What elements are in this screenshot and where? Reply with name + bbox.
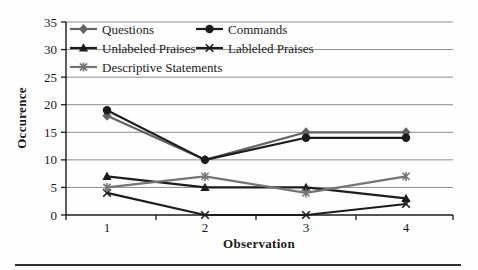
legend-label: Descriptive Statements: [102, 60, 222, 75]
diamond-marker-icon: [79, 24, 88, 34]
circle-marker-icon: [302, 134, 310, 142]
y-tick-label: 20: [44, 97, 57, 112]
line-chart-figure: 051015202530351234QuestionsCommandsUnlab…: [0, 0, 478, 270]
series-line-descriptive-statements: [107, 176, 406, 193]
y-tick-label: 25: [44, 70, 57, 85]
y-tick-label: 35: [44, 15, 57, 30]
x-tick-label: 3: [303, 220, 310, 235]
chart-canvas: 051015202530351234QuestionsCommandsUnlab…: [0, 0, 478, 256]
figure-bottom-rule: [15, 264, 461, 266]
y-tick-label: 10: [44, 152, 57, 167]
x-tick-label: 4: [403, 220, 410, 235]
x-tick-label: 1: [104, 220, 111, 235]
y-tick-label: 5: [51, 180, 58, 195]
circle-marker-icon: [103, 106, 111, 114]
y-tick-label: 0: [51, 208, 58, 223]
legend-label: Lableled Praises: [228, 41, 314, 56]
legend-label: Commands: [228, 22, 287, 37]
x-axis-title: Observation: [223, 236, 295, 252]
circle-marker-icon: [205, 25, 213, 33]
circle-marker-icon: [402, 134, 410, 142]
y-axis-title: Occurence: [14, 87, 30, 149]
y-tick-label: 15: [44, 125, 57, 140]
x-tick-label: 2: [202, 220, 209, 235]
series-line-lableled-praises: [107, 193, 406, 215]
y-tick-label: 30: [44, 42, 57, 57]
legend-label: Questions: [102, 22, 154, 37]
legend-label: Unlabeled Praises: [102, 41, 196, 56]
circle-marker-icon: [201, 156, 209, 164]
